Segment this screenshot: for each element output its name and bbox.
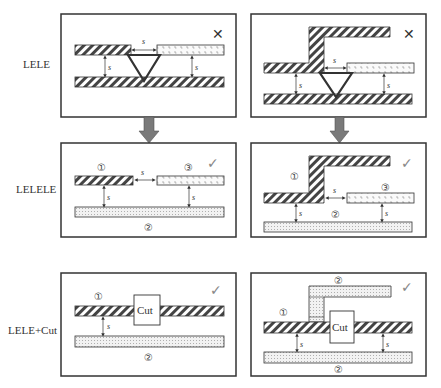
lele-diagram: LELE LELELE LELE+Cut ✕ s s s ✕ s s s ✓ [0,0,441,388]
cut-label: Cut [332,321,348,333]
down-arrow-left [139,117,159,143]
row-label-lele-cut: LELE+Cut [8,324,57,336]
mask-label-3: ③ [381,182,390,193]
panel-lele-cut-right: ✓ ② ① Cut s s ② [251,273,426,376]
spacing-label: s [300,340,303,349]
mask-label-2: ② [331,209,340,220]
panel-lele-cut-left: ✓ ① Cut s ② [61,273,236,376]
spacing-label: s [107,193,110,202]
spacing-label: s [333,56,336,65]
mask-label-1: ① [279,307,288,318]
check-icon: ✓ [210,282,222,298]
mask-label-1: ① [290,171,299,182]
line-mask-3 [347,193,414,203]
line-top-right [157,45,224,55]
line-mask-1 [75,176,133,185]
mask-label-2: ② [144,222,153,233]
line-top-right [347,63,414,73]
check-icon: ✓ [401,279,413,295]
spacing-label: s [108,63,111,72]
spacing-label: s [385,209,388,218]
line-mask-2 [264,222,412,232]
panel-lelele-right: ✓ ① ③ s ② s s [251,143,426,237]
line-top-left [75,45,131,55]
spacing-label: s [386,340,389,349]
line-mask-2 [264,352,412,363]
line-mask-3 [157,176,224,185]
cut-label: Cut [137,304,153,316]
spacing-label: s [142,37,145,46]
check-icon: ✓ [207,155,219,171]
panel-lelele-left: ✓ ① ③ s s s ② [61,143,236,237]
cross-icon: ✕ [212,26,224,42]
spacing-label: s [333,186,336,195]
down-arrow-right [330,117,349,143]
line-bottom [75,77,224,87]
spacing-label: s [299,81,302,90]
row-label-lele: LELE [23,58,50,70]
spacing-label: s [192,193,195,202]
mask-label-2: ② [334,275,343,286]
mask-label-2: ② [334,364,343,375]
cross-icon: ✕ [403,26,415,42]
line-mask-2 [75,336,224,347]
panel-lele-right: ✕ s s s [251,14,426,117]
mask-label-1: ① [97,162,106,173]
spacing-label: s [107,322,110,331]
mask-label-2: ② [144,352,153,363]
spacing-label: s [195,63,198,72]
mask-label-3: ③ [184,162,193,173]
spacing-label: s [141,168,144,177]
check-icon: ✓ [401,155,413,171]
row-label-lelele: LELELE [16,183,57,195]
spacing-label: s [299,209,302,218]
panel-lele-left: ✕ s s s [61,14,236,117]
mask-label-1: ① [94,291,103,302]
line-mask-2 [75,207,224,217]
spacing-label: s [387,81,390,90]
